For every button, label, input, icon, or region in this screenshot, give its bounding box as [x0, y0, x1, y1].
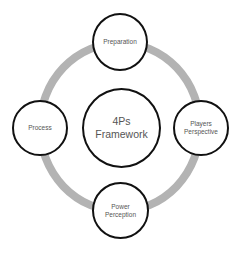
center-label-line2: Framework	[95, 128, 148, 141]
node-power-perception: Power Perception	[92, 182, 149, 239]
node-players-label-line1: Players	[184, 120, 218, 128]
node-players-perspective: Players Perspective	[173, 100, 229, 156]
node-players-label-line2: Perspective	[184, 128, 218, 136]
node-power-label-line2: Perception	[105, 211, 136, 219]
node-preparation-label: Preparation	[103, 38, 137, 46]
node-process-label: Process	[28, 124, 51, 132]
node-process: Process	[12, 100, 68, 156]
node-preparation: Preparation	[92, 13, 148, 71]
node-power-label-line1: Power	[105, 203, 136, 211]
center-circle: 4Ps Framework	[82, 88, 161, 168]
center-label-line1: 4Ps	[95, 115, 148, 128]
